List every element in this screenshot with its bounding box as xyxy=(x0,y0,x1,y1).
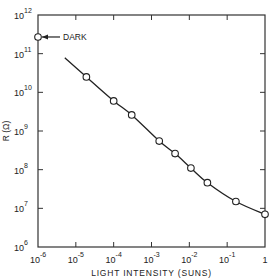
x-tick-label: 10-4 xyxy=(106,251,122,265)
data-point-marker xyxy=(83,74,90,81)
data-point-marker xyxy=(204,179,211,186)
plot-frame xyxy=(38,15,265,247)
y-tick-label: 107 xyxy=(14,200,28,214)
arrow-left-icon xyxy=(42,34,48,39)
resistance-vs-light-chart: 10-610-510-410-310-210-11106107108109101… xyxy=(0,0,276,279)
x-tick-label: 10-6 xyxy=(30,251,46,265)
y-tick-label: 108 xyxy=(14,162,28,176)
y-tick-label: 106 xyxy=(14,239,28,253)
y-tick-label: 1011 xyxy=(14,46,31,60)
x-tick-label: 10-2 xyxy=(181,251,197,265)
dark-point-marker xyxy=(35,34,42,41)
data-point-marker xyxy=(156,138,163,145)
y-tick-label: 1010 xyxy=(14,84,32,98)
data-point-marker xyxy=(128,112,135,119)
x-axis-label: LIGHT INTENSITY (SUNS) xyxy=(91,268,212,278)
y-axis-label: R (Ω) xyxy=(1,121,11,142)
series-curve xyxy=(65,58,265,215)
x-tick-label: 10-3 xyxy=(143,251,159,265)
x-tick-label: 1 xyxy=(262,255,267,265)
data-point-marker xyxy=(233,198,240,205)
chart-svg: 10-610-510-410-310-210-11106107108109101… xyxy=(0,0,276,279)
dark-annotation-label: DARK xyxy=(63,32,87,42)
data-point-marker xyxy=(172,150,179,157)
x-tick-label: 10-1 xyxy=(219,251,235,265)
data-point-marker xyxy=(262,211,269,218)
x-tick-label: 10-5 xyxy=(68,251,84,265)
y-tick-label: 109 xyxy=(14,123,28,137)
y-tick-label: 1012 xyxy=(14,7,32,21)
data-point-marker xyxy=(188,165,195,172)
data-point-marker xyxy=(110,98,117,105)
